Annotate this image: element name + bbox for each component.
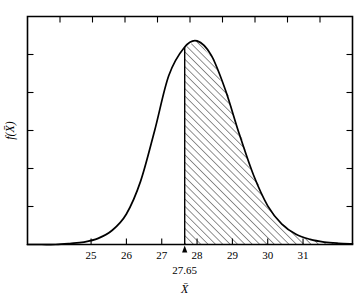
distribution-chart-figure: 25262728293031 27.65 X̄ f(X̄) <box>0 0 364 299</box>
figure-background <box>0 0 364 299</box>
critical-value-label: 27.65 <box>172 264 197 276</box>
chart-svg-canvas: 25262728293031 27.65 X̄ f(X̄) <box>0 0 364 299</box>
x-axis-tick-label: 29 <box>227 249 239 261</box>
y-axis-title: f(X̄) <box>3 121 17 140</box>
x-axis-tick-label: 26 <box>121 249 133 261</box>
x-axis-tick-label: 27 <box>156 249 168 261</box>
x-axis-title: X̄ <box>180 282 189 296</box>
x-axis-tick-label: 28 <box>192 249 204 261</box>
x-axis-tick-label: 31 <box>298 249 309 261</box>
x-axis-tick-label: 25 <box>86 249 98 261</box>
x-axis-tick-label: 30 <box>262 249 274 261</box>
